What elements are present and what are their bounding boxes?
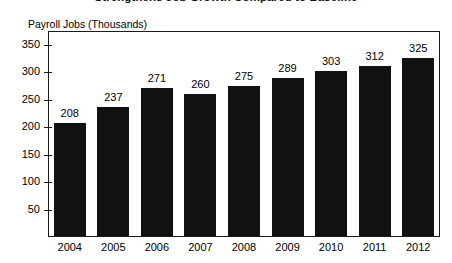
bar-value-label: 303	[306, 56, 356, 67]
bar-value-label: 260	[175, 79, 225, 90]
x-tick-label: 2007	[175, 241, 225, 253]
bar-value-label: 289	[263, 63, 313, 74]
y-tick-label: 100	[2, 176, 40, 187]
bar	[141, 88, 173, 236]
y-tick-label: 350	[2, 39, 40, 50]
y-tick-label: 300	[2, 66, 40, 77]
bar	[359, 66, 391, 236]
x-tick-label: 2012	[393, 241, 443, 253]
x-tick-label: 2008	[219, 241, 269, 253]
bar	[97, 107, 129, 236]
x-tick-label: 2011	[350, 241, 400, 253]
x-tick-label: 2010	[306, 241, 356, 253]
bar	[315, 71, 347, 236]
y-tick-mark	[44, 210, 52, 211]
bar	[54, 123, 86, 236]
x-tick-label: 2006	[132, 241, 182, 253]
y-tick-mark	[44, 72, 52, 73]
x-tick-label: 2004	[45, 241, 95, 253]
bar-value-label: 208	[45, 108, 95, 119]
x-tick-label: 2005	[88, 241, 138, 253]
y-tick-label: 200	[2, 121, 40, 132]
bar	[402, 58, 434, 236]
y-axis-title: Payroll Jobs (Thousands)	[28, 18, 147, 30]
y-tick-mark	[44, 45, 52, 46]
bar-value-label: 237	[88, 92, 138, 103]
bar	[228, 86, 260, 236]
bar-chart-figure: Strengthens Job Growth Compared to Basel…	[0, 0, 452, 263]
bar-value-label: 271	[132, 73, 182, 84]
y-tick-mark	[44, 155, 52, 156]
y-tick-mark	[44, 100, 52, 101]
bar	[184, 94, 216, 236]
y-tick-mark	[44, 182, 52, 183]
y-tick-mark	[44, 127, 52, 128]
y-tick-label: 150	[2, 149, 40, 160]
bar-value-label: 325	[393, 43, 443, 54]
x-tick-label: 2009	[263, 241, 313, 253]
bar-value-label: 312	[350, 51, 400, 62]
chart-title: Strengthens Job Growth Compared to Basel…	[0, 0, 452, 3]
bar	[272, 78, 304, 236]
y-tick-label: 50	[2, 204, 40, 215]
bar-value-label: 275	[219, 71, 269, 82]
y-tick-label: 250	[2, 94, 40, 105]
